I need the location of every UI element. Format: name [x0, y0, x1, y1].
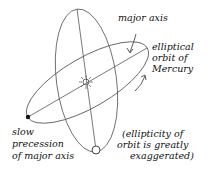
note-label-line3: exaggerated) — [130, 151, 194, 162]
precessed-orbit — [47, 5, 126, 156]
filled-dot-icon — [26, 115, 30, 119]
orbit-label-line3: Mercury — [152, 64, 193, 75]
orbit-label-line1: elliptical — [152, 42, 194, 53]
precession-label-line3: of major axis — [12, 151, 74, 162]
precession-arrow-icon — [135, 75, 146, 91]
sun-icon — [79, 75, 93, 89]
major-axis-line — [28, 48, 147, 117]
open-circle-icon — [92, 146, 100, 154]
precession-label-line2: precession — [12, 139, 64, 150]
major-axis-pointer-arrow — [127, 34, 136, 53]
precession-label-line1: slow — [12, 127, 34, 138]
major-axis-label: major axis — [118, 13, 168, 24]
elliptical-orbit — [15, 26, 160, 138]
note-label-line1: (ellipticity of — [122, 129, 183, 140]
orbit-label-line2: orbit of — [152, 53, 187, 64]
note-label-line2: orbit is greatly — [117, 140, 188, 151]
